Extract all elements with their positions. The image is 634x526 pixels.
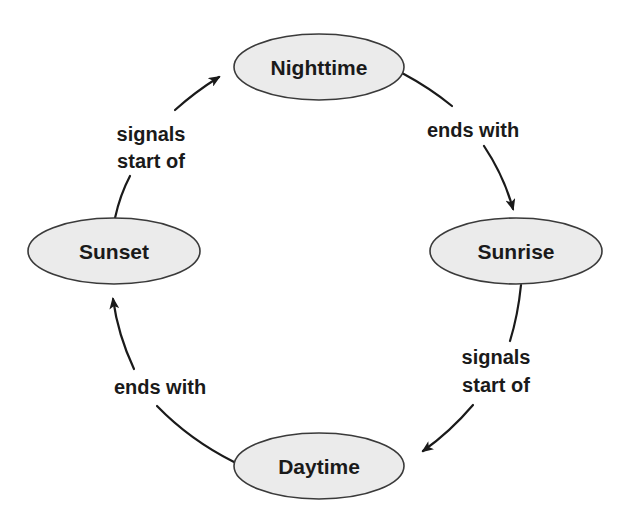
edge-label-line: ends with <box>427 119 519 141</box>
node-sunset: Sunset <box>28 218 200 284</box>
edge-sunrise-to-daytime: signals start of <box>423 285 530 451</box>
node-label: Sunset <box>79 240 149 263</box>
edge-label: ends with <box>427 119 519 141</box>
edge-label: signals <box>462 346 531 368</box>
arrow-up-right-icon <box>175 77 219 110</box>
node-sunrise: Sunrise <box>430 218 602 284</box>
node-label: Daytime <box>278 455 360 478</box>
edge-line-segment <box>115 176 130 218</box>
edge-label-line: signals <box>117 123 186 145</box>
edge-daytime-to-sunset: ends with <box>113 299 234 462</box>
edge-sunset-to-nighttime: signals start of <box>115 77 219 218</box>
node-label: Nighttime <box>271 56 368 79</box>
cycle-diagram: ends with signals start of ends with sig… <box>0 0 634 526</box>
edge-nighttime-to-sunrise: ends with <box>402 73 519 209</box>
node-daytime: Daytime <box>234 433 404 499</box>
arrow-up-icon <box>113 299 134 369</box>
edge-label: start of <box>462 374 530 396</box>
edge-line-segment <box>510 285 521 341</box>
edge-label-line: signals <box>462 346 531 368</box>
edge-label-line: start of <box>462 374 530 396</box>
edge-label: start of <box>117 150 185 172</box>
edge-line-segment <box>402 73 452 106</box>
arrow-down-left-icon <box>423 405 473 451</box>
edge-line-segment <box>157 406 234 462</box>
edge-label-line: ends with <box>114 376 206 398</box>
edge-label: signals <box>117 123 186 145</box>
node-nighttime: Nighttime <box>234 34 404 100</box>
edge-label-line: start of <box>117 150 185 172</box>
arrow-down-icon <box>484 146 513 209</box>
node-label: Sunrise <box>477 240 554 263</box>
edge-label: ends with <box>114 376 206 398</box>
